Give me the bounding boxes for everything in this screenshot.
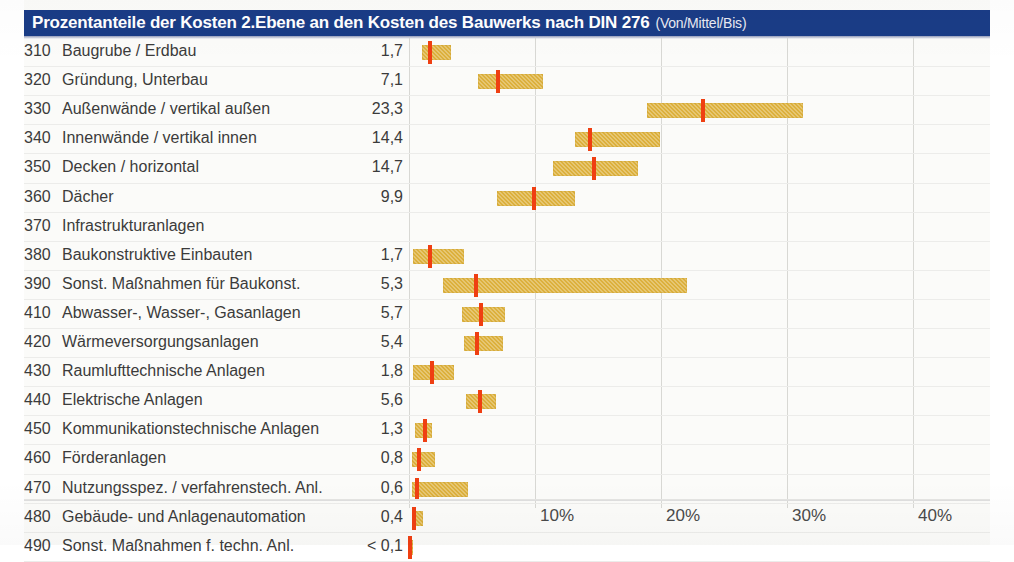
row-value: 14,4 (268, 129, 403, 147)
x-axis-tick-label: 20% (666, 506, 700, 526)
chart-row[interactable]: 440Elektrische Anlagen5,6 (0, 387, 1014, 416)
chart-row[interactable]: 390Sonst. Maßnahmen für Baukonst.5,3 (0, 271, 1014, 300)
chart-row[interactable]: 370Infrastrukturanlagen (0, 213, 1014, 242)
row-value: 5,6 (268, 391, 403, 409)
median-marker (475, 332, 479, 355)
row-value: 5,3 (268, 275, 403, 293)
chart-title-subnote: (Von/Mittel/Bis) (655, 15, 746, 31)
range-bar (412, 452, 436, 467)
chart-row[interactable]: 360Dächer9,9 (0, 184, 1014, 213)
chart-row[interactable]: 320Gründung, Unterbau7,1 (0, 67, 1014, 96)
row-label: Elektrische Anlagen (62, 391, 203, 409)
range-bar (478, 74, 542, 89)
median-marker (592, 157, 596, 180)
row-value: 14,7 (268, 158, 403, 176)
x-axis: 10%20%30%40% (0, 506, 1014, 546)
median-marker (478, 390, 482, 413)
row-label: Decken / horizontal (62, 158, 199, 176)
row-value: 1,7 (268, 246, 403, 264)
row-value: 5,4 (268, 333, 403, 351)
chart-row[interactable]: 310Baugrube / Erdbau1,7 (0, 38, 1014, 67)
row-value: 5,7 (268, 304, 403, 322)
median-marker (423, 419, 427, 442)
chart-row[interactable]: 460Förderanlagen0,8 (0, 445, 1014, 474)
median-marker (701, 99, 705, 122)
chart-row[interactable]: 380Baukonstruktive Einbauten1,7 (0, 242, 1014, 271)
row-value: 7,1 (268, 71, 403, 89)
row-label: Wärmeversorgungsanlagen (62, 333, 259, 351)
range-bar (462, 307, 505, 322)
row-value: 0,6 (268, 479, 403, 497)
range-bar (443, 278, 687, 293)
row-label: Baugrube / Erdbau (62, 42, 196, 60)
chart-row[interactable]: 410Abwasser-, Wasser-, Gasanlagen5,7 (0, 300, 1014, 329)
range-bar (647, 103, 803, 118)
footer-rule (24, 499, 990, 500)
range-bar (422, 45, 451, 60)
x-axis-tick-label: 40% (918, 506, 952, 526)
row-label: Außenwände / vertikal außen (62, 100, 270, 118)
axis-baseline (24, 500, 990, 501)
x-axis-tick-label: 10% (540, 506, 574, 526)
median-marker (417, 448, 421, 471)
row-label: Innenwände / vertikal innen (62, 129, 257, 147)
median-marker (430, 361, 434, 384)
chart-row[interactable]: 350Decken / horizontal14,7 (0, 154, 1014, 183)
median-marker (479, 303, 483, 326)
row-label: Infrastrukturanlagen (62, 217, 204, 235)
median-marker (428, 245, 432, 268)
chart-row[interactable]: 330Außenwände / vertikal außen23,3 (0, 96, 1014, 125)
range-bar (464, 336, 503, 351)
chart-title: Prozentanteile der Kosten 2.Ebene an den… (32, 13, 649, 33)
row-label: Förderanlagen (62, 449, 166, 467)
range-bar (413, 249, 465, 264)
row-value: 1,7 (268, 42, 403, 60)
row-value: 9,9 (268, 188, 403, 206)
row-value: 23,3 (268, 100, 403, 118)
range-bar (497, 191, 575, 206)
row-value: 1,8 (268, 362, 403, 380)
median-marker (588, 128, 592, 151)
row-label: Baukonstruktive Einbauten (62, 246, 252, 264)
row-label: Abwasser-, Wasser-, Gasanlagen (62, 304, 301, 322)
median-marker (496, 70, 500, 93)
row-label: Sonst. Maßnahmen für Baukonst. (62, 275, 300, 293)
row-label: Dächer (62, 188, 114, 206)
row-label: Gründung, Unterbau (62, 71, 208, 89)
x-axis-tick-label: 30% (792, 506, 826, 526)
median-marker (428, 41, 432, 64)
chart-row[interactable]: 430Raumlufttechnische Anlagen1,8 (0, 358, 1014, 387)
chart-row[interactable]: 340Innenwände / vertikal innen14,4 (0, 125, 1014, 154)
median-marker (474, 274, 478, 297)
row-value: 1,3 (268, 420, 403, 438)
chart-row[interactable]: 420Wärmeversorgungsanlagen5,4 (0, 329, 1014, 358)
median-marker (415, 478, 419, 501)
row-label: Raumlufttechnische Anlagen (62, 362, 265, 380)
chart-body: 310Baugrube / Erdbau1,7320Gründung, Unte… (0, 38, 1014, 538)
range-bar (412, 482, 469, 497)
chart-title-bar: Prozentanteile der Kosten 2.Ebene an den… (24, 10, 990, 36)
median-marker (532, 187, 536, 210)
row-value: 0,8 (268, 449, 403, 467)
chart-row[interactable]: 450Kommunikationstechnische Anlagen1,3 (0, 416, 1014, 445)
